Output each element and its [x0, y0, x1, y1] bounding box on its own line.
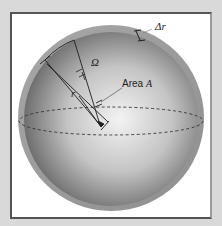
area-label-prefix: Area — [122, 78, 146, 89]
area-label-variable: A — [145, 78, 153, 89]
radius-label: r — [71, 87, 76, 99]
omega-label: Ω — [91, 56, 99, 68]
sphere-diagram: Δr Ω r Area A — [0, 0, 222, 226]
delta-r-label: Δr — [154, 20, 166, 32]
area-label: Area A — [122, 78, 153, 89]
inner-sphere — [24, 32, 198, 206]
